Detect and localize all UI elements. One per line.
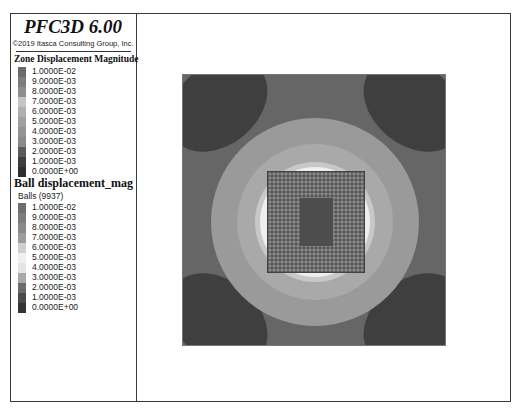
ball-legend-title: Ball displacement_mag (14, 176, 133, 191)
app-title: PFC3D 6.00 (10, 16, 136, 38)
legend-swatch (18, 233, 26, 243)
copyright-text: ©2019 Itasca Consulting Group, Inc. (10, 39, 136, 48)
legend-swatch (18, 87, 26, 97)
legend-label: 0.0000E+00 (32, 302, 78, 313)
legend-swatch (18, 203, 26, 213)
legend-swatch (18, 127, 26, 137)
legend-swatch (18, 137, 26, 147)
legend-swatch (18, 147, 26, 157)
legend-swatch (18, 243, 26, 253)
legend-swatch (18, 223, 26, 233)
legend-swatch (18, 303, 26, 313)
ball-legend-subtitle: Balls (9937) (18, 191, 63, 201)
title-divider (16, 51, 131, 52)
legend-swatch (18, 283, 26, 293)
legend-swatch (18, 157, 26, 167)
legend-swatch (18, 253, 26, 263)
legend-swatch (18, 67, 26, 77)
legend-swatch (18, 117, 26, 127)
legend-swatch (18, 273, 26, 283)
model-viewport[interactable] (137, 13, 511, 402)
contour-plot (183, 75, 445, 345)
zone-legend-title: Zone Displacement Magnitude (14, 54, 139, 64)
legend-panel: PFC3D 6.00 ©2019 Itasca Consulting Group… (10, 13, 137, 402)
legend-swatch (18, 213, 26, 223)
inner-core-region (300, 198, 333, 246)
legend-swatch (18, 263, 26, 273)
legend-swatch (18, 77, 26, 87)
legend-swatch (18, 97, 26, 107)
legend-swatch (18, 293, 26, 303)
legend-swatch (18, 107, 26, 117)
